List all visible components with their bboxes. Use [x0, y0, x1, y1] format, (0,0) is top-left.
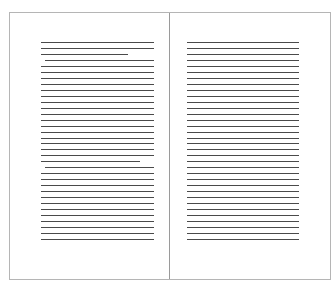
text-line: [41, 191, 154, 192]
text-line: [187, 84, 299, 85]
text-line: [187, 185, 299, 186]
text-line: [41, 239, 154, 240]
text-line: [41, 215, 154, 216]
text-line: [187, 233, 299, 234]
text-line: [187, 60, 299, 61]
text-line: [45, 167, 154, 168]
text-line: [41, 108, 154, 109]
text-line: [41, 185, 154, 186]
text-line: [41, 197, 154, 198]
text-line: [187, 227, 299, 228]
text-line: [41, 84, 154, 85]
text-line: [41, 132, 154, 133]
text-line: [187, 197, 299, 198]
text-line: [187, 155, 299, 156]
text-line: [41, 78, 154, 79]
text-line: [41, 54, 128, 55]
text-line: [187, 143, 299, 144]
page-right: [170, 13, 330, 279]
text-line: [187, 209, 299, 210]
text-line: [187, 42, 299, 43]
text-line: [41, 155, 154, 156]
text-line: [187, 138, 299, 139]
text-line: [187, 149, 299, 150]
text-line: [41, 42, 154, 43]
text-line: [41, 102, 154, 103]
text-line: [41, 90, 154, 91]
text-line: [187, 78, 299, 79]
text-line: [41, 203, 154, 204]
text-line: [187, 173, 299, 174]
text-line: [41, 138, 154, 139]
text-line: [187, 161, 299, 162]
text-line: [41, 143, 154, 144]
text-line: [187, 126, 299, 127]
text-line: [41, 66, 154, 67]
text-line: [41, 114, 154, 115]
text-line: [41, 48, 154, 49]
text-line: [187, 221, 299, 222]
text-line: [41, 209, 154, 210]
text-line: [187, 179, 299, 180]
text-line: [187, 108, 299, 109]
document-spread: [9, 12, 331, 280]
text-line: [187, 132, 299, 133]
text-line: [187, 203, 299, 204]
text-line: [41, 120, 154, 121]
text-line: [187, 96, 299, 97]
text-line: [41, 179, 154, 180]
text-line: [187, 191, 299, 192]
text-line: [187, 54, 299, 55]
text-line: [187, 239, 299, 240]
text-line: [187, 102, 299, 103]
text-line: [41, 233, 154, 234]
text-line: [187, 66, 299, 67]
text-line: [187, 72, 299, 73]
text-line: [41, 72, 154, 73]
text-line: [187, 114, 299, 115]
text-line: [187, 167, 299, 168]
text-line: [41, 227, 154, 228]
text-line: [187, 90, 299, 91]
text-line: [41, 126, 154, 127]
text-line: [187, 48, 299, 49]
page-left: [10, 13, 169, 279]
text-line: [41, 221, 154, 222]
text-line: [45, 60, 154, 61]
text-line: [187, 215, 299, 216]
text-line: [187, 120, 299, 121]
text-line: [41, 96, 154, 97]
text-line: [41, 149, 154, 150]
text-line: [41, 161, 140, 162]
text-line: [41, 173, 154, 174]
